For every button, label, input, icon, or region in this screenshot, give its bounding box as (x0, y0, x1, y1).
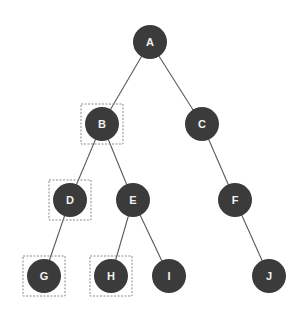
node-label: I (167, 270, 170, 282)
tree-node-f: F (218, 183, 252, 217)
tree-node-b: B (85, 107, 119, 141)
tree-node-j: J (252, 259, 286, 293)
tree-node-i: I (152, 259, 186, 293)
node-label: C (198, 118, 206, 130)
edges-layer (44, 42, 269, 276)
node-label: J (266, 270, 272, 282)
tree-node-h: H (94, 259, 128, 293)
tree-node-a: A (133, 25, 167, 59)
node-label: H (107, 270, 115, 282)
node-label: A (146, 36, 154, 48)
node-label: G (40, 270, 49, 282)
tree-node-g: G (27, 259, 61, 293)
tree-node-d: D (53, 183, 87, 217)
node-label: B (98, 118, 106, 130)
tree-node-c: C (185, 107, 219, 141)
node-label: F (232, 194, 239, 206)
tree-node-e: E (116, 183, 150, 217)
nodes-layer: ABCDEFGHIJ (27, 25, 286, 293)
tree-diagram: ABCDEFGHIJ (0, 0, 304, 312)
node-label: E (129, 194, 136, 206)
node-label: D (66, 194, 74, 206)
